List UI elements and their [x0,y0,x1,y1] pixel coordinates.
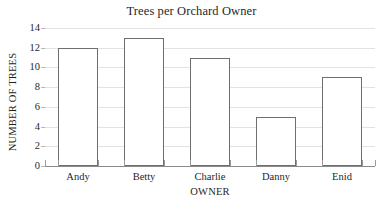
bar [190,58,230,166]
x-tick-label: Enid [309,170,375,183]
x-tick-label: Betty [111,170,177,183]
x-tick-mark [98,160,99,166]
x-tick-label: Danny [243,170,309,183]
x-tick-mark [296,160,297,166]
y-tick-mark [41,107,45,108]
bar [124,38,164,166]
x-axis-line [45,166,375,167]
y-tick-mark [41,87,45,88]
x-tick-mark [124,160,125,166]
bar [58,48,98,166]
bar [256,117,296,166]
x-tick-mark [58,160,59,166]
x-tick-label: Andy [45,170,111,183]
y-tick-label: 6 [14,101,40,112]
x-tick-mark [230,160,231,166]
y-tick-mark [41,67,45,68]
x-axis-title: OWNER [45,186,375,198]
gridline [45,28,375,29]
y-tick-label: 10 [14,61,40,72]
x-tick-mark [190,160,191,166]
plot-area [45,28,375,166]
y-tick-mark [41,28,45,29]
y-tick-mark [41,146,45,147]
x-tick-mark [256,160,257,166]
chart-title: Trees per Orchard Owner [0,4,383,19]
y-tick-mark [41,127,45,128]
x-tick-mark [362,160,363,166]
bar-chart: ........ ..... ... ....... ....... Trees… [0,0,383,212]
bar [322,77,362,166]
x-tick-mark [45,160,46,166]
y-tick-label: 8 [14,81,40,92]
y-tick-mark [41,166,45,167]
y-tick-label: 4 [14,121,40,132]
x-tick-mark [322,160,323,166]
y-tick-label: 0 [14,160,40,171]
x-tick-mark [375,160,376,166]
y-tick-mark [41,48,45,49]
x-tick-label: Charlie [177,170,243,183]
y-tick-label: 12 [14,42,40,53]
y-tick-label: 2 [14,140,40,151]
y-tick-label: 14 [14,22,40,33]
x-tick-mark [164,160,165,166]
